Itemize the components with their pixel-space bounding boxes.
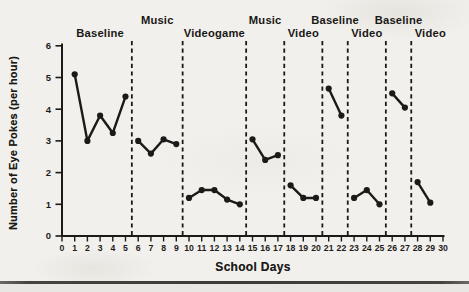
data-point <box>364 187 370 193</box>
data-point <box>135 138 141 144</box>
x-tick-label: 3 <box>98 243 103 253</box>
x-tick-label: 30 <box>438 243 448 253</box>
x-tick-label: 21 <box>324 243 334 253</box>
phase-label: Music <box>141 14 174 26</box>
data-point <box>173 141 179 147</box>
data-point <box>224 196 230 202</box>
data-point <box>211 187 217 193</box>
y-tick-label: 1 <box>46 199 52 210</box>
phase-label: Music <box>249 14 282 26</box>
x-tick-label: 22 <box>337 243 347 253</box>
x-tick-label: 27 <box>400 243 410 253</box>
y-tick-label: 3 <box>46 135 51 146</box>
x-tick-label: 14 <box>235 243 245 253</box>
x-tick-label: 11 <box>197 243 206 253</box>
scanned-figure-page: 0123456012345678910111213141516171819202… <box>0 0 469 292</box>
data-point <box>199 187 205 193</box>
x-tick-label: 16 <box>260 243 270 253</box>
phase-series-video <box>415 179 434 206</box>
x-tick-label: 28 <box>413 243 423 253</box>
data-point <box>186 195 192 201</box>
data-point <box>84 138 90 144</box>
x-tick-label: 15 <box>248 243 258 253</box>
phase-label: Videogame <box>184 27 245 39</box>
phase-boundary-lines <box>132 41 411 236</box>
data-point <box>110 130 116 136</box>
x-tick-label: 13 <box>222 243 232 253</box>
data-point <box>161 136 167 142</box>
x-tick-label: 12 <box>210 243 220 253</box>
x-tick-label: 25 <box>375 243 385 253</box>
y-tick-label: 0 <box>46 230 51 241</box>
phase-data-line <box>75 74 126 141</box>
phase-data-line <box>329 89 342 116</box>
data-point <box>402 105 408 111</box>
x-tick-label: 20 <box>311 243 321 253</box>
data-point <box>237 201 243 207</box>
eye-pokes-line-chart: 0123456012345678910111213141516171819202… <box>0 0 469 292</box>
phase-label: Baseline <box>311 14 359 26</box>
phase-series-baseline <box>389 90 408 110</box>
y-tick-label: 2 <box>46 167 51 178</box>
phase-series-baseline <box>326 85 345 118</box>
phase-label: Baseline <box>375 14 423 26</box>
phase-series-baseline <box>72 71 129 144</box>
phase-series-music <box>249 136 281 163</box>
x-tick-label: 19 <box>298 243 308 253</box>
data-point <box>376 201 382 207</box>
data-point <box>249 136 255 142</box>
phase-label: Baseline <box>76 27 124 39</box>
x-tick-label: 6 <box>136 243 141 253</box>
x-tick-label: 0 <box>60 243 65 253</box>
x-tick-label: 9 <box>174 243 179 253</box>
y-tick-label: 5 <box>46 72 52 83</box>
x-tick-label: 1 <box>72 243 77 253</box>
data-point <box>326 85 332 91</box>
data-point <box>122 93 128 99</box>
phase-data-line <box>418 182 431 203</box>
data-point <box>415 179 421 185</box>
y-axis-ticks: 0123456 <box>46 40 62 241</box>
data-point <box>97 112 103 118</box>
data-point <box>338 112 344 118</box>
phase-series-videogame <box>186 187 243 207</box>
phase-label: Video <box>288 27 319 39</box>
x-tick-label: 10 <box>184 243 194 253</box>
y-axis-title: Number of Eye Pokes (per hour) <box>7 50 23 236</box>
x-tick-label: 7 <box>148 243 153 253</box>
phase-data-line <box>138 139 176 153</box>
data-point <box>262 157 268 163</box>
phase-series-video <box>351 187 383 207</box>
x-tick-label: 5 <box>123 243 128 253</box>
y-tick-label: 4 <box>46 104 52 115</box>
x-axis-ticks: 0123456789101112131415161718192021222324… <box>60 236 448 253</box>
data-point <box>275 152 281 158</box>
x-tick-label: 18 <box>286 243 296 253</box>
x-tick-label: 26 <box>387 243 397 253</box>
y-tick-label: 6 <box>46 40 51 51</box>
phase-labels: BaselineMusicVideogameMusicVideoBaseline… <box>76 14 446 39</box>
x-tick-label: 4 <box>110 243 115 253</box>
phase-label: Video <box>415 27 446 39</box>
data-point <box>288 182 294 188</box>
x-tick-label: 24 <box>362 243 372 253</box>
data-point <box>427 200 433 206</box>
x-tick-label: 29 <box>425 243 435 253</box>
data-point <box>389 90 395 96</box>
phase-series-video <box>288 182 320 201</box>
x-tick-label: 2 <box>85 243 90 253</box>
data-point <box>313 195 319 201</box>
phase-label: Video <box>351 27 382 39</box>
x-tick-label: 17 <box>273 243 283 253</box>
page-footer-band <box>0 284 469 292</box>
phase-series-music <box>135 136 179 156</box>
data-point <box>300 195 306 201</box>
x-tick-label: 8 <box>161 243 166 253</box>
x-tick-label: 23 <box>349 243 359 253</box>
x-axis-title: School Days <box>62 260 444 274</box>
data-point <box>148 150 154 156</box>
data-point <box>351 195 357 201</box>
data-point <box>72 71 78 77</box>
